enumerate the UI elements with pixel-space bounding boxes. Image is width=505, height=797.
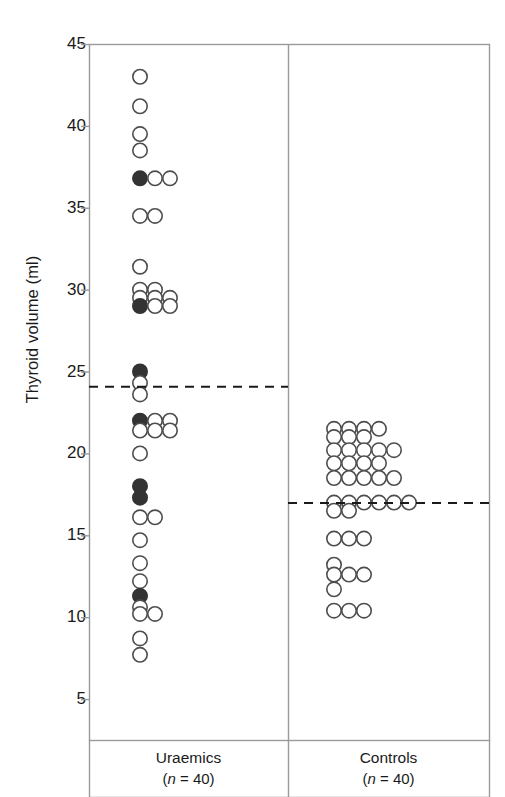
data-point-open: [342, 471, 356, 485]
data-point-open: [148, 510, 162, 524]
data-point-open: [372, 443, 386, 457]
data-point-open: [342, 567, 356, 581]
data-point-filled: [133, 171, 147, 185]
data-point-open: [357, 456, 371, 470]
data-point-open: [342, 603, 356, 617]
group-label-controls-n: (n = 40): [299, 769, 479, 789]
series-uraemics: [133, 70, 177, 662]
data-point-open: [342, 456, 356, 470]
data-point-open: [372, 456, 386, 470]
data-point-open: [327, 443, 341, 457]
data-point-open: [372, 422, 386, 436]
data-point-open: [148, 607, 162, 621]
data-point-open: [148, 423, 162, 437]
data-point-open: [133, 387, 147, 401]
data-point-open: [133, 99, 147, 113]
data-point-filled: [133, 490, 147, 504]
data-point-open: [133, 209, 147, 223]
data-point-open: [327, 582, 341, 596]
data-point-filled: [133, 299, 147, 313]
plot-area: [0, 0, 505, 797]
data-point-open: [133, 533, 147, 547]
data-point-open: [133, 70, 147, 84]
data-point-open: [357, 603, 371, 617]
data-point-open: [357, 567, 371, 581]
data-point-open: [148, 171, 162, 185]
data-point-open: [342, 430, 356, 444]
data-point-open: [133, 423, 147, 437]
data-point-open: [133, 607, 147, 621]
plot-frame: [90, 45, 490, 741]
data-point-open: [163, 423, 177, 437]
data-point-open: [133, 510, 147, 524]
data-point-open: [148, 299, 162, 313]
thyroid-volume-dot-plot: Thyroid volume (ml) 51015202530354045 Ur…: [0, 0, 505, 797]
data-point-open: [357, 443, 371, 457]
data-point-open: [148, 209, 162, 223]
data-point-open: [327, 471, 341, 485]
group-label-controls-name: Controls: [299, 748, 479, 769]
data-point-open: [327, 531, 341, 545]
data-point-open: [327, 456, 341, 470]
n-italic: n: [167, 770, 175, 787]
data-point-open: [133, 574, 147, 588]
series-controls: [327, 422, 416, 618]
data-point-open: [342, 443, 356, 457]
data-point-open: [133, 648, 147, 662]
group-label-uraemics: Uraemics (n = 40): [99, 748, 279, 789]
data-point-open: [133, 260, 147, 274]
n-italic: n: [367, 770, 375, 787]
data-point-open: [387, 471, 401, 485]
data-point-open: [387, 443, 401, 457]
data-point-open: [133, 127, 147, 141]
data-point-open: [133, 631, 147, 645]
group-label-uraemics-n: (n = 40): [99, 769, 279, 789]
group-label-uraemics-name: Uraemics: [99, 748, 279, 769]
data-point-open: [133, 446, 147, 460]
data-point-open: [342, 531, 356, 545]
data-point-open: [133, 556, 147, 570]
group-label-controls: Controls (n = 40): [299, 748, 479, 789]
data-point-open: [327, 504, 341, 518]
data-point-open: [357, 531, 371, 545]
data-point-open: [327, 603, 341, 617]
data-point-open: [357, 471, 371, 485]
data-point-open: [163, 299, 177, 313]
data-point-open: [163, 171, 177, 185]
data-point-open: [133, 143, 147, 157]
data-point-open: [372, 471, 386, 485]
data-point-open: [357, 430, 371, 444]
data-point-open: [342, 504, 356, 518]
data-point-open: [327, 430, 341, 444]
data-point-open: [327, 567, 341, 581]
